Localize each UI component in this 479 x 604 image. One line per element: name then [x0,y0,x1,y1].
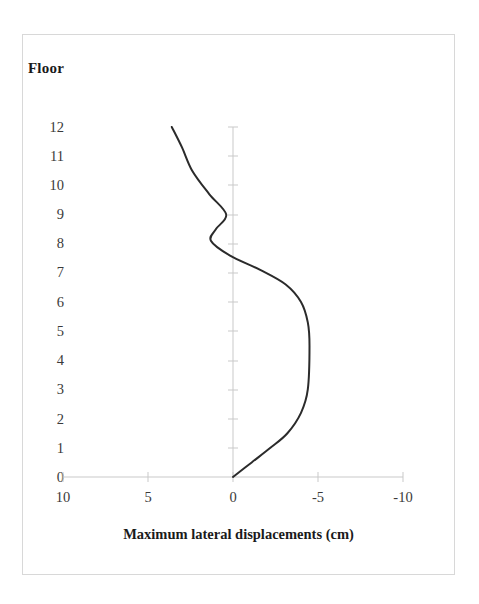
displacement-curve [172,127,310,477]
chart-figure: Floor Maximum lateral displacements (cm)… [0,0,479,604]
chart-plot-area [0,0,479,604]
